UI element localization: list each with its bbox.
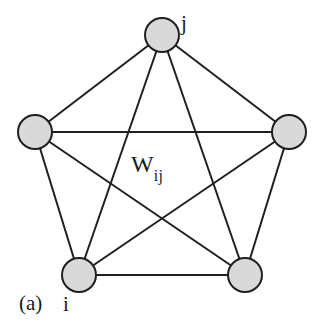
node-top[interactable]	[145, 18, 179, 52]
node-group	[18, 18, 306, 292]
edge-top-right	[162, 35, 289, 132]
node-left[interactable]	[18, 115, 52, 149]
network-graph-canvas	[0, 0, 322, 329]
edge-top-bottomleft	[79, 35, 162, 275]
edge-right-bottomleft	[79, 132, 289, 275]
figure-container: j i (a) Wij	[0, 0, 322, 329]
node-right[interactable]	[272, 115, 306, 149]
edge-left-bottomleft	[35, 132, 79, 275]
node-bottom-left[interactable]	[62, 258, 96, 292]
node-bottom-right[interactable]	[228, 258, 262, 292]
edge-left-bottomright	[35, 132, 245, 275]
edge-top-left	[35, 35, 162, 132]
edge-group	[35, 35, 289, 275]
edge-right-bottomright	[245, 132, 289, 275]
edge-top-bottomright	[162, 35, 245, 275]
